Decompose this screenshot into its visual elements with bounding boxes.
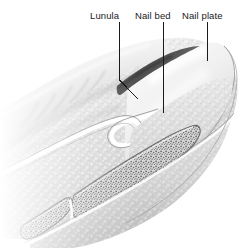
- label-nail-bed: Nail bed: [135, 11, 171, 21]
- fingernail-anatomy-figure: [0, 0, 250, 248]
- label-lunula: Lunula: [90, 11, 119, 21]
- label-nail-plate: Nail plate: [182, 11, 223, 21]
